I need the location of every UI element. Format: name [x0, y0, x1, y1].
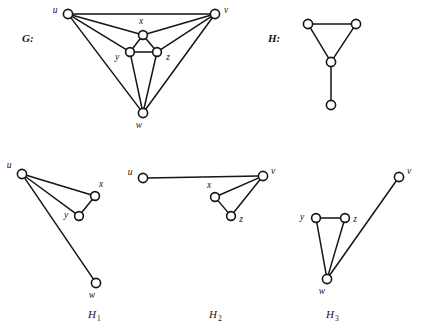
edge-v-z: [161, 17, 211, 50]
graph-panel-h2: uvxzH2: [128, 166, 276, 323]
vertex-label-v: v: [407, 166, 412, 176]
panel-label-h: H:: [267, 32, 280, 44]
edge-a-c: [310, 28, 328, 58]
panel-caption-h1: H: [87, 308, 97, 320]
vertex-label-z: z: [238, 214, 243, 224]
graph-panel-h1: uxywH1: [7, 160, 104, 323]
vertex-y: [75, 212, 84, 221]
edge-y-w: [131, 56, 142, 108]
vertex-label-v: v: [224, 5, 229, 15]
panel-caption-subscript-h1: 1: [97, 314, 101, 323]
edge-x-z: [218, 200, 228, 212]
panel-caption-subscript-h3: 3: [335, 314, 339, 323]
vertex-a: [303, 19, 312, 28]
vertex-label-y: y: [63, 210, 69, 220]
panel-label-g: G:: [22, 32, 34, 44]
vertex-x: [91, 192, 100, 201]
edge-b-c: [334, 28, 354, 58]
panel-caption-subscript-h2: 2: [218, 314, 222, 323]
vertex-label-u: u: [53, 5, 58, 15]
vertex-label-w: w: [89, 290, 96, 300]
vertex-v: [394, 172, 403, 181]
vertex-w: [138, 108, 147, 117]
graph-panel-h: H:: [267, 19, 361, 109]
vertex-label-w: w: [319, 286, 326, 296]
vertex-label-y: y: [299, 212, 305, 222]
vertex-label-v: v: [271, 166, 276, 176]
edge-z-w: [144, 56, 156, 108]
edge-x-y: [133, 39, 141, 49]
vertex-u: [63, 9, 72, 18]
vertex-z: [153, 48, 162, 57]
panel-caption-h2: H: [208, 308, 218, 320]
vertex-x: [211, 193, 220, 202]
vertex-u: [138, 173, 147, 182]
vertex-label-u: u: [7, 160, 12, 170]
edge-w-v: [330, 181, 397, 275]
edge-v-x: [219, 178, 259, 195]
vertex-u: [17, 169, 26, 178]
vertex-label-w: w: [136, 120, 143, 130]
vertex-c: [326, 57, 335, 66]
vertex-y: [312, 214, 321, 223]
vertex-z: [341, 214, 350, 223]
vertex-w: [322, 274, 331, 283]
vertex-label-z: z: [352, 214, 357, 224]
edge-v-z: [234, 180, 260, 213]
edge-v-x: [147, 15, 210, 33]
edge-y-w: [317, 222, 326, 274]
vertex-label-u: u: [128, 167, 133, 177]
graph-panel-g: uvxyzwG:: [22, 5, 229, 130]
vertex-label-x: x: [98, 179, 104, 189]
edge-u-v: [148, 176, 259, 178]
vertex-v: [210, 9, 219, 18]
graph-figure-canvas: uvxyzwG:H:uxywH1uvxzH2vyzwH3: [0, 0, 425, 331]
vertex-z: [227, 212, 236, 221]
vertex-d: [326, 100, 335, 109]
panel-caption-h3: H: [325, 308, 335, 320]
edge-x-y: [82, 199, 93, 212]
figure-graph-isomorphism: uvxyzwG:H:uxywH1uvxzH2vyzwH3: [0, 0, 425, 331]
vertex-label-x: x: [138, 16, 144, 26]
vertex-x: [139, 31, 148, 40]
vertex-w: [91, 278, 100, 287]
edge-u-x: [72, 15, 138, 34]
vertex-v: [258, 171, 267, 180]
vertex-b: [351, 19, 360, 28]
vertex-label-z: z: [165, 52, 170, 62]
edge-x-z: [146, 38, 154, 48]
vertex-label-y: y: [114, 52, 120, 62]
vertex-label-x: x: [206, 180, 212, 190]
edge-u-y: [72, 16, 126, 49]
vertex-y: [126, 48, 135, 57]
graph-panel-h3: vyzwH3: [299, 166, 412, 323]
